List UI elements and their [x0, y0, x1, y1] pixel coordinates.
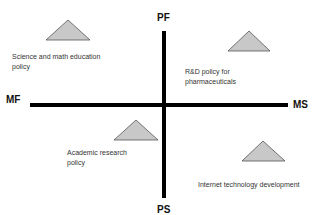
vertical-axis [162, 31, 166, 198]
label-bottom-left: Academic research policy [67, 148, 127, 168]
horizontal-axis [30, 103, 288, 107]
label-bottom-right: Internet technology development [198, 180, 300, 190]
label-bottom-left-line-2: policy [67, 158, 127, 168]
label-bottom-left-line-1: Academic research [67, 148, 127, 158]
label-top-left: Science and math education policy [12, 52, 100, 72]
label-top-left-line-2: policy [12, 62, 100, 72]
triangle-marker-top-right [228, 31, 270, 51]
label-top-right-line-2: pharmaceuticals [185, 77, 236, 87]
axis-label-left: MF [6, 95, 20, 105]
triangle-marker-bottom-left [114, 120, 158, 140]
label-top-left-line-1: Science and math education [12, 52, 100, 62]
quadrant-diagram: PF PS MF MS Science and math education p… [0, 0, 312, 215]
label-top-right: R&D policy for pharmaceuticals [185, 67, 236, 87]
axis-label-right: MS [293, 100, 308, 110]
label-top-right-line-1: R&D policy for [185, 67, 236, 77]
label-bottom-right-line-1: Internet technology development [198, 180, 300, 190]
axis-label-top: PF [157, 13, 170, 23]
triangle-marker-bottom-right [242, 141, 285, 161]
triangle-marker-top-left [46, 20, 90, 40]
axis-label-bottom: PS [157, 205, 170, 215]
